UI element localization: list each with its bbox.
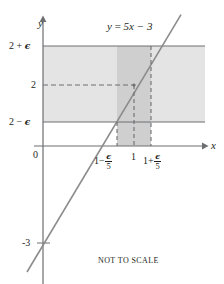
epsilon-symbol: ϵ [25, 117, 30, 127]
equation-equals: = [112, 20, 124, 32]
fraction-denominator: 5 [107, 162, 111, 171]
epsilon-symbol: ϵ [25, 41, 30, 51]
not-to-scale-note: NOT TO SCALE [98, 257, 159, 265]
y-tick-op: − [14, 116, 25, 127]
y-axis-label: y [38, 18, 43, 29]
y-tick-label-2-plus-epsilon: 2 + ϵ [9, 41, 30, 51]
limit-point-marker [132, 83, 135, 86]
function-equation-label: y = 5x − 3 [107, 21, 152, 32]
x-tick-label-lower: 1 − ϵ5 [94, 152, 113, 171]
fraction-denominator: 5 [156, 162, 160, 171]
plot-canvas [0, 0, 224, 284]
y-tick-label-minus-three: -3 [22, 238, 30, 248]
epsilon-delta-limit-diagram: y x y = 5x − 3 2 + ϵ 2 2 − ϵ -3 0 1 − ϵ5… [0, 0, 224, 284]
x-axis-arrowhead [202, 143, 209, 150]
fraction-epsilon-over-five: ϵ5 [154, 152, 161, 171]
origin-label: 0 [33, 150, 38, 160]
x-tick-op: + [148, 156, 154, 166]
y-tick-label-2: 2 [31, 80, 36, 90]
x-tick-label-center: 1 [131, 152, 136, 162]
x-tick-op: − [99, 156, 105, 166]
equation-rhs: 5x − 3 [124, 20, 153, 32]
x-axis-label: x [211, 140, 216, 151]
x-tick-label-upper: 1 + ϵ5 [143, 152, 162, 171]
y-tick-label-2-minus-epsilon: 2 − ϵ [9, 117, 30, 127]
fraction-numerator: ϵ [154, 152, 161, 161]
y-tick-op: + [14, 40, 25, 51]
fraction-numerator: ϵ [105, 152, 112, 161]
fraction-epsilon-over-five: ϵ5 [105, 152, 112, 171]
